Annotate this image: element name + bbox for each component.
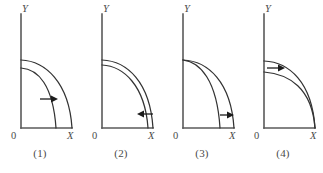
low-arc [264, 72, 315, 128]
panel-4-graph: Y X 0 [243, 0, 323, 145]
x-axis-label: X [147, 130, 155, 141]
inner-arc [21, 68, 56, 128]
origin-label: 0 [173, 130, 178, 141]
panel-1: Y X 0 (1) [0, 0, 80, 173]
y-axis-label: Y [265, 3, 272, 14]
origin-label: 0 [254, 130, 259, 141]
shift-arrow-head [51, 96, 58, 103]
x-axis-label: X [228, 130, 236, 141]
panel-1-graph: Y X 0 [0, 0, 80, 145]
panel-2: Y X 0 (2) [81, 0, 161, 173]
panel-2-graph: Y X 0 [81, 0, 161, 145]
steep-arc [183, 60, 220, 128]
panel-3: Y X 0 (3) [162, 0, 242, 173]
y-axis-label: Y [22, 3, 29, 14]
y-axis-label: Y [184, 3, 191, 14]
x-axis-label: X [66, 130, 74, 141]
origin-label: 0 [11, 130, 16, 141]
origin-label: 0 [92, 130, 97, 141]
high-arc [264, 61, 315, 128]
curve-shift-figure: Y X 0 (1) Y X 0 (2) [0, 0, 323, 173]
panel-2-caption: (2) [81, 147, 161, 159]
wide-arc [183, 60, 234, 128]
outer-arc [102, 60, 153, 128]
panel-1-caption: (1) [0, 147, 80, 159]
shift-arrow-head [137, 111, 144, 118]
panel-3-graph: Y X 0 [162, 0, 242, 145]
y-axis-label: Y [103, 3, 110, 14]
panel-4: Y X 0 (4) [243, 0, 323, 173]
x-axis-label: X [309, 130, 317, 141]
inner-arc [102, 65, 148, 128]
panel-4-caption: (4) [243, 147, 323, 159]
panel-3-caption: (3) [162, 147, 242, 159]
